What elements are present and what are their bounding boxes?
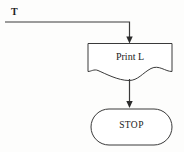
print-to-stop-arrow-icon [126, 101, 132, 108]
entry-connector-line [5, 22, 130, 39]
entry-connector-label: T [11, 7, 18, 17]
edge-print-to-stop [126, 79, 132, 108]
edge-entry-to-print [5, 22, 133, 44]
flowchart-canvas: T Print L STOP [0, 0, 184, 152]
stop-node-label: STOP [91, 121, 172, 131]
print-document-shape [88, 44, 172, 81]
print-node-label: Print L [88, 52, 172, 62]
entry-arrow-icon [126, 37, 132, 44]
